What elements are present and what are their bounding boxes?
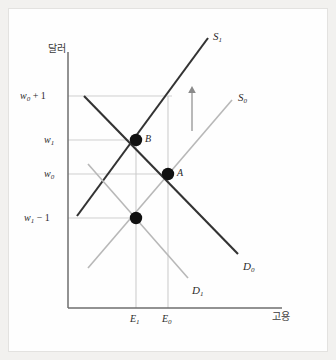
y-tick-operator: − 1 [34, 212, 50, 223]
y-tick-label-w0: w0 [44, 169, 54, 181]
y-tick-label-w1: w1 [44, 135, 54, 147]
x-tick-label-e1: E1 [130, 314, 140, 326]
point-marker-a [162, 168, 174, 180]
x-tick-label-e0: E0 [162, 314, 172, 326]
y-tick-base: w [44, 134, 51, 145]
curve-supply-shifted [77, 38, 208, 216]
figure-canvas: 달러 고용 w0 + 1 w1 w0 w1 − 1 E1 E0 S1 S0 D0… [0, 0, 336, 360]
curve-label-demand-shifted: D1 [192, 285, 203, 298]
curve-label-supply-original: S0 [238, 92, 247, 105]
curve-label-demand-original: D0 [243, 261, 254, 274]
curve-label-base: D [192, 284, 200, 296]
point-marker-b [130, 134, 142, 146]
x-tick-subscript: 1 [136, 318, 140, 326]
curve-label-subscript: 0 [251, 266, 255, 274]
curve-label-supply-shifted: S1 [213, 31, 222, 44]
point-label-a: A [177, 168, 183, 178]
point-label-b: B [145, 134, 151, 144]
y-tick-base: w [24, 212, 31, 223]
y-tick-subscript: 0 [51, 173, 55, 181]
y-tick-subscript: 1 [51, 139, 55, 147]
curve-label-base: D [243, 260, 251, 272]
curve-label-subscript: 1 [200, 290, 204, 298]
curve-label-subscript: 0 [244, 97, 248, 105]
y-tick-operator: + 1 [30, 90, 46, 101]
y-tick-base: w [44, 168, 51, 179]
x-axis-title: 고용 [272, 312, 290, 322]
curve-supply-original [88, 100, 232, 268]
up-arrow-icon [188, 86, 196, 131]
y-tick-base: w [20, 90, 27, 101]
curve-label-subscript: 1 [219, 36, 223, 44]
x-tick-subscript: 0 [168, 318, 172, 326]
point-marker-unlabeled [130, 212, 142, 224]
y-tick-label-w0-plus-1: w0 + 1 [20, 91, 46, 103]
y-axis-title: 달러 [48, 44, 66, 54]
y-tick-label-w1-minus-1: w1 − 1 [24, 213, 50, 225]
